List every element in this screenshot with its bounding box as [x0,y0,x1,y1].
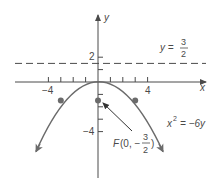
focus-label: F (0, − 3 2 ) [113,132,154,155]
svg-text:= −6y: = −6y [180,118,206,129]
svg-text:x: x [166,118,173,129]
y-tick-label-2: 2 [89,51,95,62]
equation-label: x 2 = −6y [166,115,206,129]
svg-text:3: 3 [143,132,148,142]
point-right [132,98,138,104]
parabola-figure: x y −4 4 2 −4 y = 3 2 F [0,0,222,190]
svg-text:y =: y = [159,42,174,53]
svg-text:3: 3 [181,37,186,47]
y-axis-label: y [103,12,110,23]
svg-text:F: F [113,138,120,149]
x-tick-label-4: 4 [145,85,151,96]
svg-text:2: 2 [143,145,148,155]
svg-text:(0, −: (0, − [120,138,140,149]
svg-text:): ) [151,138,154,149]
y-ticks [98,57,103,131]
x-axis-label: x [199,82,206,93]
svg-text:2: 2 [181,49,186,59]
x-tick-label-neg4: −4 [42,85,54,96]
focus-point [95,98,101,104]
focus-pointer-arrow [103,103,132,131]
directrix-label: y = 3 2 [159,37,188,59]
y-tick-label-neg4: −4 [83,126,95,137]
point-left [58,98,64,104]
svg-text:2: 2 [173,115,177,122]
